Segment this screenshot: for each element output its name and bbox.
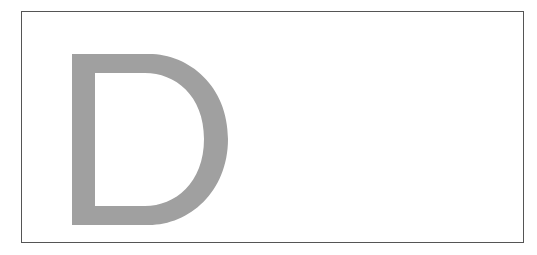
- bordered-rectangle: D: [21, 11, 524, 243]
- letter-d-glyph: D: [71, 53, 229, 226]
- image-canvas: D: [0, 0, 537, 255]
- letter-d-svg: [71, 53, 229, 226]
- letter-d-path: [72, 54, 228, 225]
